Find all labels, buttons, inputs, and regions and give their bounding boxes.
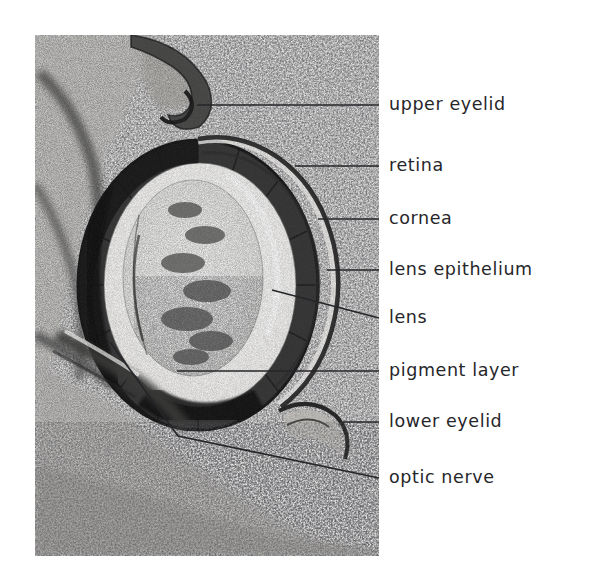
- label-retina: retina: [389, 157, 444, 175]
- label-optic-nerve: optic nerve: [389, 469, 495, 487]
- label-lower-eyelid: lower eyelid: [389, 413, 502, 431]
- leader-lens: [272, 290, 379, 318]
- labeled-micrograph-figure: upper eyelid retina cornea lens epitheli…: [0, 0, 599, 578]
- label-lens-epithelium: lens epithelium: [389, 261, 533, 279]
- label-upper-eyelid: upper eyelid: [389, 96, 506, 114]
- label-pigment-layer: pigment layer: [389, 362, 519, 380]
- leader-lines: [0, 0, 599, 578]
- leader-optic-nerve: [110, 342, 379, 478]
- label-cornea: cornea: [389, 210, 452, 228]
- label-lens: lens: [389, 309, 427, 327]
